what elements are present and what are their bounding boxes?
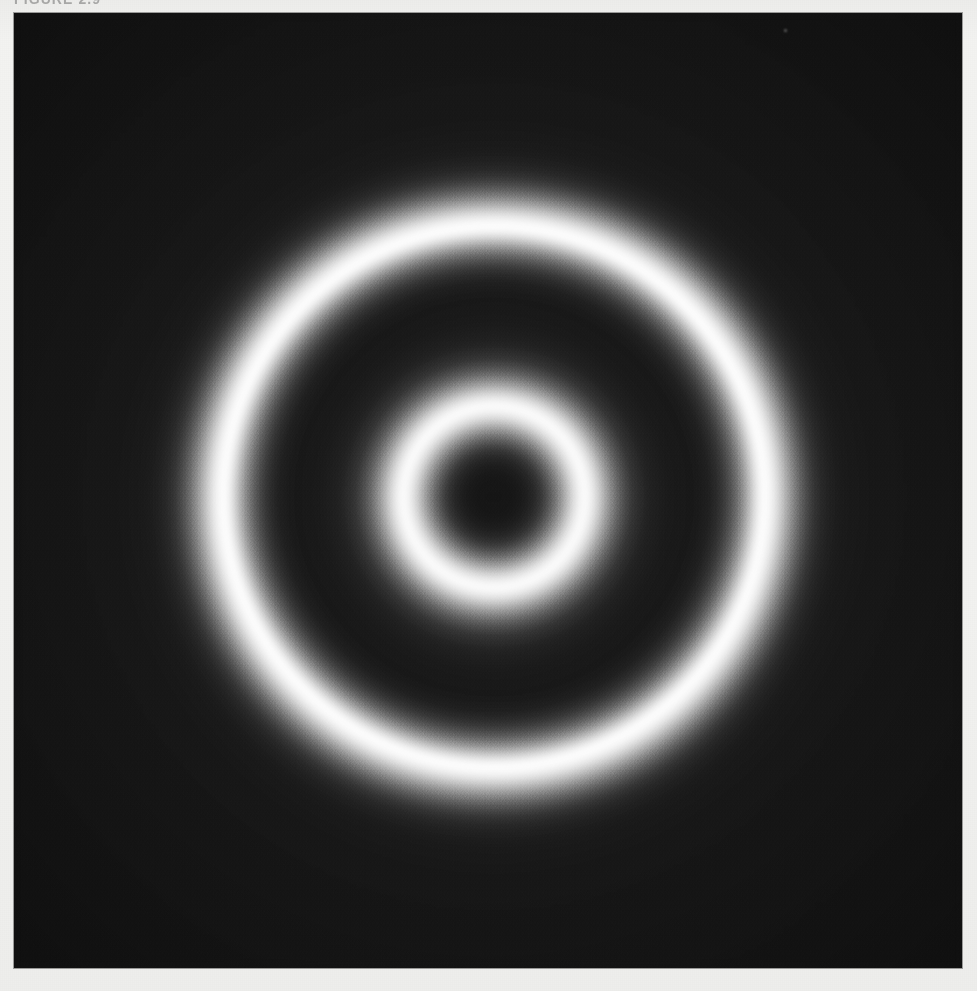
concentric-ring-diffraction-pattern: [14, 13, 962, 968]
figure-image-panel: [14, 13, 962, 968]
dust-speck-artifact: [784, 29, 787, 32]
figure-caption: FIGURE 2.9: [14, 0, 101, 4]
sensor-grain-layer: [14, 13, 962, 968]
